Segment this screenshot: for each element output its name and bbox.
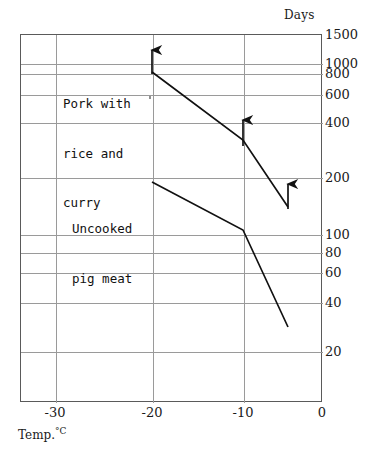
series-annotation-line-2: rice and bbox=[63, 146, 131, 163]
xtick-label--30: -30 bbox=[35, 406, 75, 419]
ytick-label-200: 200 bbox=[325, 171, 350, 184]
x-axis-title-text: Temp. bbox=[18, 428, 55, 442]
gridline-x--30 bbox=[56, 35, 57, 403]
ytick-label-40: 40 bbox=[325, 296, 342, 309]
ytick-label-600: 600 bbox=[325, 88, 350, 101]
ytick-label-60: 60 bbox=[325, 266, 342, 279]
xtick-label-0: 0 bbox=[307, 406, 337, 419]
gridline-y-40 bbox=[21, 303, 323, 304]
ytick-label-1500: 1500 bbox=[325, 28, 358, 41]
gridline-y-60 bbox=[21, 273, 323, 274]
ytick-label-80: 80 bbox=[325, 246, 342, 259]
ytick-label-800: 800 bbox=[325, 67, 350, 80]
gridline-y-20 bbox=[21, 352, 323, 353]
series-annotation-line-1: Uncooked bbox=[72, 221, 132, 238]
x-axis-title: Temp.°C bbox=[18, 426, 66, 442]
ytick-label-400: 400 bbox=[325, 116, 350, 129]
series-annotation-line-1: Pork with bbox=[63, 96, 131, 113]
series-annotation-line-2: pig meat bbox=[72, 271, 132, 288]
ytick-label-100: 100 bbox=[325, 228, 350, 241]
gridline-y-80 bbox=[21, 253, 323, 254]
xtick-label--10: -10 bbox=[223, 406, 263, 419]
chart-figure: Days 1500 1000 80 bbox=[0, 0, 384, 458]
gridline-x--10 bbox=[244, 35, 245, 403]
ytick-label-20: 20 bbox=[325, 345, 342, 358]
y-axis-title: Days bbox=[284, 8, 315, 22]
series-annotation-uncooked-pig-meat: Uncooked pig meat bbox=[72, 188, 132, 320]
gridline-x--20 bbox=[153, 35, 154, 403]
x-axis-unit: °C bbox=[55, 426, 66, 436]
xtick-label--20: -20 bbox=[132, 406, 172, 419]
